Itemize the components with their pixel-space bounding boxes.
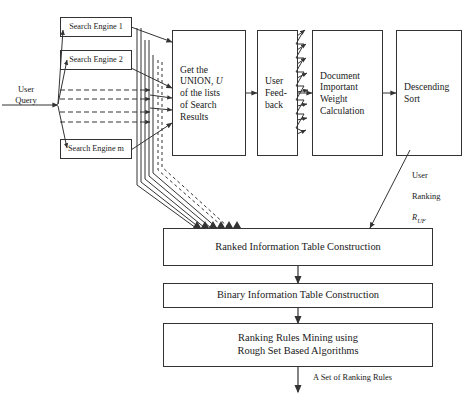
search-engine-1-box[interactable]: Search Engine 1 xyxy=(60,17,132,37)
get-union-box[interactable]: Get the UNION, U of the lists of Search … xyxy=(172,30,246,156)
descending-sort-label: Descending Sort xyxy=(397,81,449,104)
user-ranking-subscript: UF xyxy=(417,216,426,223)
binary-information-table-label: Binary Information Table Construction xyxy=(217,289,379,302)
search-engine-m-label: Search Engine m xyxy=(64,144,128,154)
sort-to-ranked-connector xyxy=(370,150,410,228)
rules-mining-box[interactable]: Ranking Rules Mining using Rough Set Bas… xyxy=(163,323,433,367)
user-feedback-label: User Feed- back xyxy=(258,75,287,110)
binary-information-table-box[interactable]: Binary Information Table Construction xyxy=(163,283,433,308)
weight-calculation-label: Document Important Weight Calculation xyxy=(313,70,364,117)
search-engine-2-box[interactable]: Search Engine 2 xyxy=(60,50,132,70)
user-query-label: User Query xyxy=(5,84,47,105)
ranked-information-table-label: Ranked Information Table Construction xyxy=(215,241,381,254)
user-feedback-box[interactable]: User Feed- back xyxy=(257,30,298,156)
user-ranking-line1: User xyxy=(412,171,428,180)
search-engine-2-label: Search Engine 2 xyxy=(65,55,127,65)
output-label: A Set of Ranking Rules xyxy=(313,373,453,384)
user-ranking-label: User Ranking RUF xyxy=(412,160,468,224)
get-union-label: Get the UNION, U of the lists of Search … xyxy=(173,64,223,123)
search-engine-m-box[interactable]: Search Engine m xyxy=(60,139,132,159)
search-engine-1-label: Search Engine 1 xyxy=(65,22,127,32)
ranked-information-table-box[interactable]: Ranked Information Table Construction xyxy=(163,228,433,266)
rules-mining-label: Ranking Rules Mining using Rough Set Bas… xyxy=(238,332,359,357)
diagram-canvas: Search Engine 1 Search Engine 2 Search E… xyxy=(0,0,474,408)
weight-calculation-box[interactable]: Document Important Weight Calculation xyxy=(312,30,383,156)
descending-sort-box[interactable]: Descending Sort xyxy=(396,30,462,156)
user-ranking-line2: Ranking xyxy=(412,192,440,201)
